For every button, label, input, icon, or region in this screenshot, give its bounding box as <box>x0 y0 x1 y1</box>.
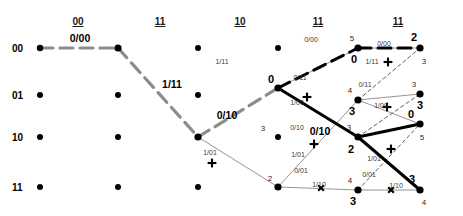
branch-metric-minor: 1/11 <box>215 58 228 65</box>
path-metric: 0 <box>351 53 357 65</box>
branch-metric-minor: 1/11 <box>365 58 378 65</box>
trellis-node[interactable] <box>195 92 201 98</box>
path-metric: 0 <box>408 108 414 120</box>
branch-metric-major: 0/10 <box>310 125 330 137</box>
trellis-branch-thin <box>358 94 420 100</box>
path-metric: 4 <box>348 86 352 95</box>
trellis-node[interactable] <box>274 84 281 91</box>
state-row-label: 11 <box>12 182 23 193</box>
path-metric: 4 <box>348 176 352 185</box>
survivor-path-gray <box>198 88 278 137</box>
path-metric: 3 <box>417 99 423 111</box>
trellis-diagram: 0011101111000110110/001/110/100/101/111/… <box>0 0 463 216</box>
branch-metric-major: 0/10 <box>217 109 237 121</box>
branch-metric-major: 1/11 <box>162 78 182 90</box>
trellis-node[interactable] <box>194 133 201 140</box>
branch-metric-minor: 1/01 <box>367 155 381 162</box>
branch-metric-minor: 0/01 <box>294 167 308 174</box>
path-metric: 3 <box>261 124 265 133</box>
trellis-node[interactable] <box>416 44 423 51</box>
trellis-node[interactable] <box>37 184 43 190</box>
path-metric: 3 <box>422 57 426 66</box>
column-header: 11 <box>393 16 404 27</box>
trellis-node[interactable] <box>274 183 281 190</box>
path-metric: 2 <box>411 31 417 43</box>
trellis-node[interactable] <box>37 92 43 98</box>
branch-metric-minor: 1/01 <box>291 151 305 158</box>
pruned-plus-marker <box>208 159 217 168</box>
trellis-node[interactable] <box>275 45 281 51</box>
trellis-node[interactable] <box>354 186 361 193</box>
trellis-node[interactable] <box>115 134 121 140</box>
trellis-node[interactable] <box>195 45 201 51</box>
survivor-path-gray <box>118 48 198 137</box>
branch-metric-minor: 0/00 <box>377 40 391 47</box>
trellis-node[interactable] <box>354 44 361 51</box>
state-row-label: 00 <box>12 43 23 54</box>
trellis-node[interactable] <box>37 45 43 51</box>
path-metric: 3 <box>350 195 356 207</box>
trellis-node[interactable] <box>416 120 423 127</box>
path-metric: 2 <box>268 174 272 183</box>
trellis-node[interactable] <box>114 44 121 51</box>
branch-metric-minor: 1/00 <box>374 102 388 109</box>
trellis-node[interactable] <box>416 90 423 97</box>
path-metric: 3 <box>347 123 351 132</box>
path-metric: 4 <box>422 198 426 207</box>
path-metric: 3 <box>409 173 415 185</box>
trellis-node[interactable] <box>37 134 43 140</box>
pruned-plus-marker <box>384 58 393 67</box>
branch-metric-minor: 1/00 <box>290 99 304 106</box>
trellis-node[interactable] <box>354 133 361 140</box>
branch-metric-minor: 0/11 <box>358 81 371 88</box>
branch-metric-minor: 0/10 <box>290 124 304 131</box>
trellis-node[interactable] <box>354 96 361 103</box>
path-metric: 5 <box>350 34 354 43</box>
trellis-node[interactable] <box>115 92 121 98</box>
branch-metric-minor: 0/00 <box>304 36 318 43</box>
path-metric: 0 <box>268 73 274 85</box>
trellis-node[interactable] <box>195 184 201 190</box>
branch-metric-minor: 1/10 <box>312 181 326 188</box>
column-header: 00 <box>72 16 83 27</box>
column-header: 11 <box>155 16 166 27</box>
branch-metric-minor: 0/01 <box>362 171 376 178</box>
trellis-node[interactable] <box>115 184 121 190</box>
path-metric: 3 <box>349 105 355 117</box>
path-metric: 5 <box>420 133 424 142</box>
branch-metric-minor: 0/11 <box>293 74 306 81</box>
branch-metric-major: 0/00 <box>70 32 90 44</box>
path-metric: 3 <box>412 80 416 89</box>
pruned-plus-marker <box>310 140 319 149</box>
path-metric: 2 <box>348 143 354 155</box>
trellis-node[interactable] <box>416 186 423 193</box>
trellis-branch-dashed <box>358 48 420 100</box>
column-header: 11 <box>313 16 324 27</box>
survivor-path-black <box>358 124 420 137</box>
state-row-label: 10 <box>12 132 23 143</box>
branch-metric-minor: 1/01 <box>203 149 217 156</box>
column-header: 10 <box>234 16 245 27</box>
trellis-node[interactable] <box>275 134 281 140</box>
branch-metric-minor: 1/10 <box>389 182 403 189</box>
state-row-label: 01 <box>12 90 23 101</box>
